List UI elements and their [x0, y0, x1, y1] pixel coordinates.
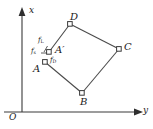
vertex-marker-a	[43, 60, 48, 65]
point-label-c: C	[124, 42, 132, 52]
axis-label-x: x	[29, 6, 34, 15]
point-label-b: B	[80, 97, 87, 107]
vertex-marker-c	[117, 47, 122, 52]
vertical-axis	[19, 7, 26, 112]
vertex-marker-d	[68, 22, 73, 27]
geometry-diagram: x y O D C B A A′ fL fs fD	[0, 0, 153, 129]
vertex-marker-a-prime	[47, 50, 52, 55]
force-label-lift: fL	[38, 37, 44, 45]
point-label-d: D	[70, 12, 78, 22]
vertex-marker-b	[80, 91, 85, 96]
force-label-side-subscript: s	[34, 50, 36, 55]
point-label-a: A	[33, 64, 40, 74]
prime-mark: ′	[62, 44, 64, 55]
horizontal-axis	[4, 109, 143, 116]
point-label-a-prime: A′	[55, 45, 65, 55]
axis-label-y: y	[143, 106, 148, 115]
force-label-lift-subscript: L	[41, 39, 44, 44]
force-label-drag: fD	[50, 57, 56, 65]
force-label-drag-subscript: D	[53, 59, 57, 64]
force-label-side: fs	[31, 48, 36, 56]
origin-label: O	[9, 113, 16, 122]
